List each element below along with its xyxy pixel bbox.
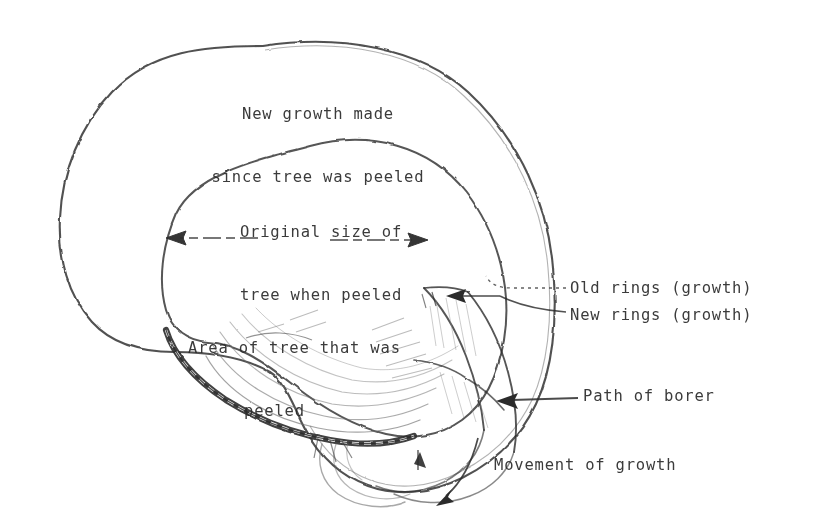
label-original-size-line1: Original size of <box>196 222 446 243</box>
label-new-growth-line1: New growth made <box>183 104 453 125</box>
label-area-peeled: Area of tree that was peeled <box>188 296 458 464</box>
label-old-rings: Old rings (growth) <box>570 278 752 299</box>
label-new-rings: New rings (growth) <box>570 305 752 326</box>
figure-canvas: New growth made since tree was peeled Or… <box>0 0 837 527</box>
label-area-peeled-line2: peeled <box>188 401 458 422</box>
label-movement-of-growth: Movement of growth <box>494 455 676 476</box>
label-path-of-borer: Path of borer <box>583 386 715 407</box>
label-area-peeled-line1: Area of tree that was <box>188 338 458 359</box>
